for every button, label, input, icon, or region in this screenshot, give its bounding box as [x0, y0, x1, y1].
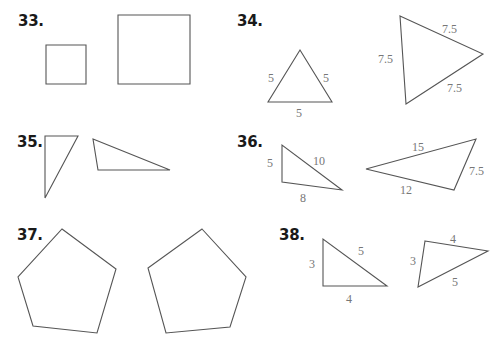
problem-37-figures	[18, 229, 246, 333]
small-square	[46, 45, 86, 84]
side-label: 4	[346, 292, 352, 306]
side-label: 7.5	[442, 22, 457, 36]
side-label: 7.5	[378, 52, 393, 66]
tall-triangle	[45, 136, 78, 198]
problem-34-figures: 5 5 5 7.5 7.5 7.5	[268, 16, 483, 120]
right-pentagon	[148, 229, 246, 333]
right-triangle	[323, 239, 387, 286]
side-label: 15	[412, 140, 424, 154]
side-label: 12	[400, 183, 412, 197]
small-triangle	[282, 145, 342, 190]
side-label: 3	[309, 257, 315, 271]
side-label: 3	[410, 254, 416, 268]
side-label: 5	[358, 244, 364, 258]
side-label: 7.5	[447, 81, 462, 95]
problem-35-figures	[45, 136, 170, 198]
problem-38-figures: 3 5 4 4 3 5	[309, 232, 488, 306]
side-label: 5	[267, 156, 273, 170]
side-label: 5	[296, 106, 302, 120]
side-label: 5	[268, 71, 274, 85]
side-label: 5	[323, 71, 329, 85]
side-label: 5	[452, 275, 458, 289]
side-label: 8	[300, 191, 306, 205]
figures-canvas: 5 5 5 7.5 7.5 7.5 5 10 8 15 7.5 12 3 5 4…	[0, 0, 502, 343]
side-label: 7.5	[469, 164, 484, 178]
left-pentagon	[18, 229, 116, 333]
side-label: 10	[313, 154, 325, 168]
problem-36-figures: 5 10 8 15 7.5 12	[267, 139, 484, 205]
wide-triangle	[93, 139, 170, 170]
large-square	[118, 15, 190, 84]
side-label: 4	[450, 232, 456, 246]
problem-33-figures	[46, 15, 190, 84]
